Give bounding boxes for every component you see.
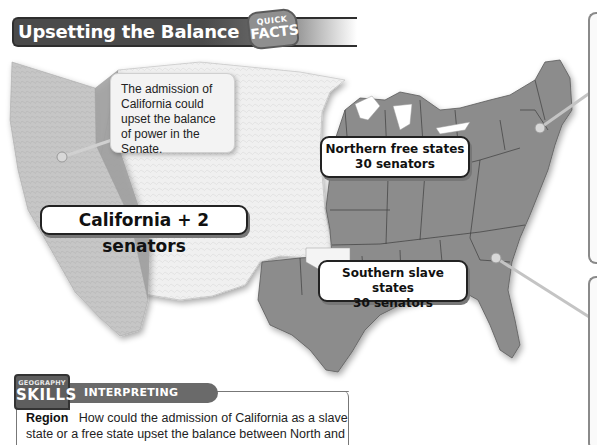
california-label: California + 2 senators [40,205,248,235]
side-panel-top [588,12,597,264]
south-label-line2: 30 senators [320,296,466,311]
quick-facts-badge: QUICK FACTS [246,7,300,50]
south-label-line1: Southern slave states [320,266,466,296]
california-note: The admission of California could upset … [110,73,235,153]
north-label-line2: 30 senators [322,157,468,172]
page-title: Upsetting the Balance [18,21,239,42]
question-label: Region [26,411,68,425]
skills-box-top-border [210,391,349,392]
geography-skills-badge: GEOGRAPHY SKILLS [14,374,70,410]
side-panel-bottom [588,276,597,445]
skills-question: Region How could the admission of Califo… [26,410,356,445]
quick-facts-bottom: FACTS [250,23,297,42]
interpreting-maps-tab: INTERPRETING MAPS [70,383,218,403]
southern-slave-states-label: Southern slave states 30 senators [318,260,468,302]
skills-badge-big: SKILLS [16,387,68,404]
north-label-line1: Northern free states [322,142,468,157]
northern-free-states-label: Northern free states 30 senators [320,136,470,178]
question-text: How could the admission of California as… [26,411,348,445]
